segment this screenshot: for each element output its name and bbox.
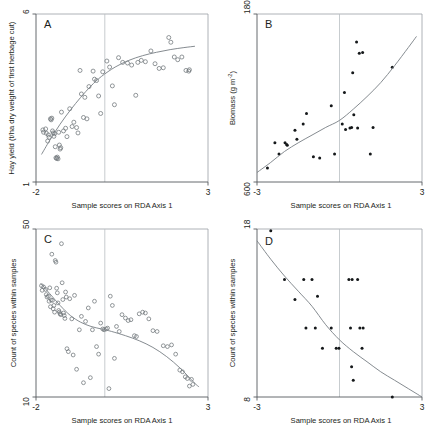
data-point <box>349 327 352 330</box>
data-point <box>337 347 340 350</box>
data-point <box>72 120 76 124</box>
data-point <box>318 156 321 159</box>
panel-a-ytick-max: 6 <box>21 9 31 14</box>
data-point <box>176 58 180 62</box>
data-point <box>95 345 99 349</box>
panel-a-xtick-max: 3 <box>206 187 211 197</box>
data-point <box>153 62 157 66</box>
panel-a-plot: A 6 1 -2 3 Hay yield (t/ha dry weight of… <box>0 0 217 215</box>
data-point <box>84 320 88 324</box>
panel-d-xlabel: Sample scores on RDA Axis 1 <box>291 416 392 425</box>
panel-b-ylabel-base: Biomass (g m <box>228 79 237 125</box>
panel-d-letter: D <box>265 235 273 247</box>
data-point <box>343 91 346 94</box>
data-point <box>77 328 81 332</box>
data-point <box>355 41 358 44</box>
data-point <box>107 387 111 391</box>
data-point <box>139 58 143 62</box>
panel-d-ylabel: Count of species within samples <box>228 259 237 368</box>
data-point <box>86 306 90 310</box>
data-point <box>358 327 361 330</box>
panel-c: C 50 10 -2 3 Count of species within sam… <box>0 215 217 430</box>
panel-b-letter: B <box>265 18 272 30</box>
figure-panel-grid: A 6 1 -2 3 Hay yield (t/ha dry weight of… <box>0 0 435 431</box>
data-point <box>169 40 173 44</box>
data-point <box>147 317 151 321</box>
data-point <box>97 94 101 98</box>
panel-a-xtick-min: -2 <box>32 187 40 197</box>
data-point <box>105 59 109 63</box>
data-point <box>151 329 155 333</box>
data-point <box>341 122 344 125</box>
data-point <box>304 327 307 330</box>
data-point <box>356 278 359 281</box>
panel-c-xtick-min: -2 <box>32 402 40 412</box>
data-point <box>71 353 75 357</box>
data-point <box>75 367 79 371</box>
data-point <box>108 294 112 298</box>
data-point <box>80 314 84 318</box>
data-point <box>101 70 105 74</box>
data-point <box>321 347 324 350</box>
data-point <box>73 293 77 297</box>
data-point <box>115 325 119 329</box>
data-point <box>130 63 134 67</box>
panel-a-fit-curve <box>42 46 195 154</box>
data-point <box>97 352 101 356</box>
data-point <box>172 55 176 59</box>
panel-d-ytick-max: 18 <box>242 219 252 229</box>
data-point <box>83 95 87 99</box>
data-point <box>53 310 57 314</box>
panel-c-ylabel: Count of species within samples <box>9 259 18 368</box>
data-point <box>59 110 63 114</box>
data-point <box>143 60 147 64</box>
panel-b: B 1800 600 -3 3 Biomass (g m-2) Sample s… <box>217 0 434 215</box>
panel-c-xtick-max: 3 <box>206 402 211 412</box>
panel-b-ylabel: Biomass (g m-2) <box>227 71 237 125</box>
panel-a-letter: A <box>44 18 52 30</box>
data-point <box>330 104 333 107</box>
data-point <box>110 304 114 308</box>
data-point <box>99 321 103 325</box>
data-point <box>85 117 89 121</box>
data-point <box>99 111 103 115</box>
panel-d-plot: D 18 8 -3 3 Count of species within samp… <box>217 215 434 430</box>
panel-a-frame <box>36 14 208 182</box>
panel-d: D 18 8 -3 3 Count of species within samp… <box>217 215 434 430</box>
data-point <box>350 126 353 129</box>
data-point <box>70 125 74 129</box>
data-point <box>335 347 338 350</box>
data-point <box>161 66 165 70</box>
data-point <box>391 396 394 399</box>
data-point <box>351 71 354 74</box>
data-point <box>361 51 364 54</box>
data-point <box>347 278 350 281</box>
data-point <box>351 278 354 281</box>
data-point <box>167 36 171 40</box>
panel-a-ylabel: Hay yield (t/ha dry weight of first herb… <box>7 21 16 174</box>
data-point <box>161 344 165 348</box>
data-point <box>62 129 66 133</box>
data-point <box>91 69 95 73</box>
panel-c-points <box>40 242 195 391</box>
panel-b-xlabel: Sample scores on RDA Axis 1 <box>291 201 392 210</box>
data-point <box>60 242 64 246</box>
data-point <box>78 68 82 72</box>
panel-c-ytick-max: 50 <box>21 219 31 229</box>
data-point <box>358 52 361 55</box>
data-point <box>293 129 296 132</box>
panel-a-xlabel: Sample scores on RDA Axis 1 <box>72 201 173 210</box>
data-point <box>157 66 161 70</box>
data-point <box>93 299 97 303</box>
data-point <box>82 381 86 385</box>
data-point <box>155 330 159 334</box>
data-point <box>330 327 333 330</box>
data-point <box>362 327 365 330</box>
data-point <box>75 126 79 130</box>
data-point <box>112 103 116 107</box>
data-point <box>266 167 269 170</box>
data-point <box>53 145 57 149</box>
panel-b-ytick-min: 600 <box>242 182 252 196</box>
data-point <box>120 313 124 317</box>
panel-a-points <box>41 36 192 161</box>
